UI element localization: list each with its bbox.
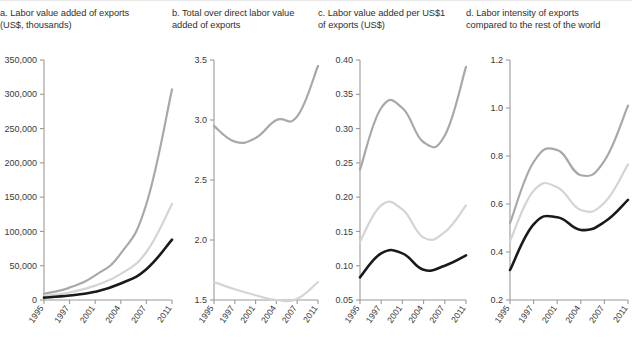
y-tick-label: 2.5 (194, 175, 207, 185)
x-tick-label: 2004 (103, 303, 122, 325)
x-tick-label: 2007 (587, 303, 606, 325)
series-line-1 (510, 106, 628, 224)
series-line-3 (360, 250, 466, 277)
chart-panel-d: d. Labor intensity of exportscompared to… (466, 0, 632, 344)
x-tick-label: 1995 (342, 303, 361, 325)
x-tick-label: 1997 (217, 303, 236, 325)
x-tick-label: 2011 (155, 303, 174, 324)
x-tick-label: 2007 (427, 303, 446, 325)
x-tick-label: 2011 (301, 303, 320, 324)
y-tick-label: 2.0 (194, 235, 207, 245)
x-tick-label: 2007 (129, 303, 148, 325)
y-tick-label: 0.35 (335, 89, 353, 99)
x-tick-label: 2007 (280, 303, 299, 325)
y-tick-label: 0.25 (335, 158, 353, 168)
y-tick-label: 0.8 (490, 151, 503, 161)
x-tick-label: 2004 (259, 303, 278, 325)
chart-panel-b: b. Total over direct labor valueadded of… (172, 0, 322, 344)
y-tick-label: 1.5 (194, 295, 207, 305)
y-tick-label: 1.0 (490, 103, 503, 113)
chart-panel-c: c. Labor value added per US$1of exports … (318, 0, 470, 344)
x-tick-label: 1997 (516, 303, 535, 325)
x-tick-label: 2001 (238, 303, 257, 325)
x-tick-label: 1995 (492, 303, 511, 325)
figure-multi-panel-line-charts: a. Labor value added of exports(US$, tho… (0, 0, 632, 344)
x-tick-label: 2011 (449, 303, 468, 324)
y-tick-label: 3.0 (194, 115, 207, 125)
series-line-2 (360, 202, 466, 242)
y-tick-label: 250,000 (4, 124, 37, 134)
y-tick-label: 50,000 (9, 261, 37, 271)
plot-area-b: 1.52.02.53.03.5199519972001200420072011 (172, 0, 322, 344)
series-line-2 (214, 282, 318, 301)
plot-area-c: 0.050.100.150.200.250.300.350.4019951997… (318, 0, 470, 344)
y-tick-label: 0.30 (335, 124, 353, 134)
y-tick-label: 0.20 (335, 192, 353, 202)
y-tick-label: 0.05 (335, 295, 353, 305)
x-tick-label: 1995 (196, 303, 215, 325)
series-line-1 (214, 66, 318, 143)
y-tick-label: 0.15 (335, 227, 353, 237)
y-tick-label: 0.4 (490, 247, 503, 257)
chart-panel-a: a. Labor value added of exports(US$, tho… (0, 0, 176, 344)
y-tick-label: 0.6 (490, 199, 503, 209)
x-tick-label: 1997 (364, 303, 383, 325)
plot-area-d: 0.20.40.60.81.01.21995199720012004200720… (466, 0, 632, 344)
x-tick-label: 2011 (611, 303, 630, 324)
y-tick-label: 3.5 (194, 55, 207, 65)
series-line-1 (360, 67, 466, 170)
y-tick-label: 350,000 (4, 55, 37, 65)
y-tick-label: 0.2 (490, 295, 503, 305)
y-tick-label: 100,000 (4, 227, 37, 237)
y-tick-label: 200,000 (4, 158, 37, 168)
y-tick-label: 1.2 (490, 55, 503, 65)
y-tick-label: 0.40 (335, 55, 353, 65)
y-tick-label: 300,000 (4, 89, 37, 99)
x-tick-label: 2001 (385, 303, 404, 325)
y-tick-label: 0.10 (335, 261, 353, 271)
x-tick-label: 1995 (26, 303, 45, 325)
x-tick-label: 1997 (52, 303, 71, 325)
series-line-3 (510, 200, 628, 270)
x-tick-label: 2004 (563, 303, 582, 325)
y-tick-label: 150,000 (4, 192, 37, 202)
plot-area-a: 050,000100,000150,000200,000250,000300,0… (0, 0, 176, 344)
x-tick-label: 2001 (540, 303, 559, 325)
series-line-2 (44, 204, 172, 296)
x-tick-label: 2001 (78, 303, 97, 325)
x-tick-label: 2004 (406, 303, 425, 325)
